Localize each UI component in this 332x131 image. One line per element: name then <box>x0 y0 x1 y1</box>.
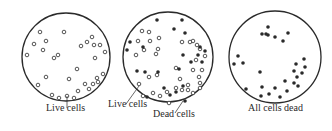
live-cell-icon <box>50 93 54 97</box>
live-cell-icon <box>62 30 66 34</box>
dead-cell-icon <box>258 70 262 74</box>
live-cell-icon <box>197 75 201 79</box>
live-cell-icon <box>165 90 169 94</box>
dead-cell-icon <box>285 89 289 93</box>
live-cell-icon <box>76 89 80 93</box>
live-cell-icon <box>180 88 184 92</box>
dead-cell-icon <box>181 84 185 88</box>
dead-cell-icon <box>172 27 176 31</box>
dead-cell-icon <box>244 87 248 91</box>
live-cell-icon <box>154 52 158 56</box>
live-cell-icon <box>195 43 199 47</box>
dead-cell-icon <box>232 62 236 66</box>
dead-cell-icon <box>128 40 132 44</box>
dead-cell-icon <box>177 67 181 71</box>
live-cell-icon <box>32 42 36 46</box>
dead-cell-icon <box>181 53 185 57</box>
panel-live <box>22 13 110 108</box>
dead-cell-icon <box>296 84 300 88</box>
live-cell-icon <box>87 87 91 91</box>
live-cell-icon <box>156 47 160 51</box>
live-cell-icon <box>52 56 56 60</box>
live-cell-icon <box>178 77 182 81</box>
live-cell-icon <box>151 91 155 95</box>
dead-cell-icon <box>273 35 277 39</box>
dead-cell-icon <box>162 86 166 90</box>
live-cell-icon <box>91 82 95 86</box>
caption-dead-cells-panel2: Dead cells <box>153 109 195 119</box>
dead-cell-icon <box>196 53 200 57</box>
caption-live-cells-panel1: Live cells <box>46 103 85 113</box>
live-cell-icon <box>147 75 151 79</box>
dead-cell-icon <box>168 93 172 97</box>
dead-cell-icon <box>180 18 184 22</box>
dead-cell-icon <box>273 86 277 90</box>
live-cell-icon <box>203 54 207 58</box>
live-cell-icon <box>75 67 79 71</box>
dead-cell-icon <box>143 70 147 74</box>
dead-cell-icon <box>303 65 307 69</box>
live-cell-icon <box>186 88 190 92</box>
live-cell-icon <box>167 101 171 105</box>
dead-cell-icon <box>292 69 296 73</box>
dead-cell-icon <box>189 60 193 64</box>
dead-cell-icon <box>135 69 139 73</box>
live-cell-icon <box>158 94 162 98</box>
cell-viability-diagram: Live cells Live cells Dead cells All cel… <box>0 0 332 131</box>
dead-cell-icon <box>295 75 299 79</box>
live-cell-icon <box>136 39 140 43</box>
dead-cell-icon <box>266 33 270 37</box>
live-cell-icon <box>186 83 190 87</box>
live-cell-icon <box>25 53 29 57</box>
live-cell-icon <box>72 96 76 100</box>
live-cell-icon <box>157 36 161 40</box>
dead-cell-icon <box>267 92 271 96</box>
live-cell-icon <box>188 40 192 44</box>
dead-cell-icon <box>141 45 145 49</box>
live-cell-icon <box>83 82 87 86</box>
dead-cell-icon <box>200 60 204 64</box>
dead-cell-icon <box>300 71 304 75</box>
live-cell-icon <box>200 68 204 72</box>
live-cell-icon <box>92 43 96 47</box>
live-cell-icon <box>95 76 99 80</box>
live-cell-icon <box>57 96 61 100</box>
dead-cell-icon <box>283 79 287 83</box>
dead-cell-icon <box>278 95 282 99</box>
dead-cell-icon <box>155 18 159 22</box>
live-cell-icon <box>191 91 195 95</box>
live-cell-icon <box>101 72 105 76</box>
dead-cell-icon <box>294 62 298 66</box>
dead-cell-icon <box>198 45 202 49</box>
dead-cell-icon <box>260 32 264 36</box>
dead-cell-icon <box>183 31 187 35</box>
live-cell-icon <box>67 77 71 81</box>
live-cell-icon <box>198 81 202 85</box>
live-cell-icon <box>56 53 60 57</box>
live-cell-icon <box>174 86 178 90</box>
live-cell-icon <box>191 68 195 72</box>
dead-cell-icon <box>266 25 270 29</box>
caption-all-cells-dead: All cells dead <box>248 103 303 113</box>
dead-cell-icon <box>236 54 240 58</box>
live-cell-icon <box>103 50 107 54</box>
live-cell-icon <box>147 30 151 34</box>
dead-cell-icon <box>260 85 264 89</box>
live-cell-icon <box>96 80 100 84</box>
live-cell-icon <box>36 83 40 87</box>
dead-cell-icon <box>259 94 263 98</box>
live-cell-icon <box>79 44 83 48</box>
live-cell-icon <box>90 35 94 39</box>
dead-cell-icon <box>241 61 245 65</box>
dead-cell-icon <box>286 31 290 35</box>
live-cell-icon <box>148 39 152 43</box>
live-cell-icon <box>140 29 144 33</box>
dead-cell-icon <box>302 57 306 61</box>
live-cell-icon <box>194 58 198 62</box>
live-cell-icon <box>198 86 202 90</box>
dead-cell-icon <box>203 49 207 53</box>
panel-dead <box>229 11 321 103</box>
live-cell-icon <box>134 53 138 57</box>
dead-cell-icon <box>183 99 187 103</box>
dead-cell-icon <box>292 81 296 85</box>
